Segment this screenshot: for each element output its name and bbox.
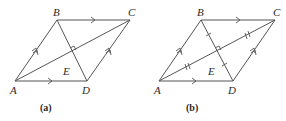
- label-e: E: [62, 65, 70, 77]
- diagonal-bd: [201, 20, 233, 81]
- label-e: E: [207, 65, 215, 77]
- label-a: A: [9, 84, 17, 96]
- label-c: C: [273, 6, 281, 18]
- caption-b: (b): [186, 102, 198, 114]
- label-b: B: [197, 6, 204, 18]
- label-b: B: [53, 6, 60, 18]
- label-c: C: [128, 6, 136, 18]
- diagonal-bd: [57, 20, 87, 81]
- figure-a: A B C D E (a): [9, 6, 136, 114]
- figure-b: A B C D E (b): [153, 6, 281, 114]
- label-d: D: [81, 84, 90, 96]
- caption-a: (a): [40, 102, 52, 114]
- rhombus-diagrams: A B C D E (a): [0, 0, 286, 121]
- label-a: A: [153, 84, 161, 96]
- label-d: D: [227, 84, 236, 96]
